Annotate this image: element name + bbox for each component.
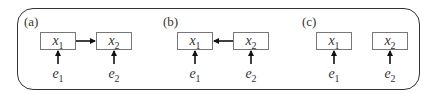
error-arrows <box>58 51 390 64</box>
arrows-layer <box>0 0 437 95</box>
